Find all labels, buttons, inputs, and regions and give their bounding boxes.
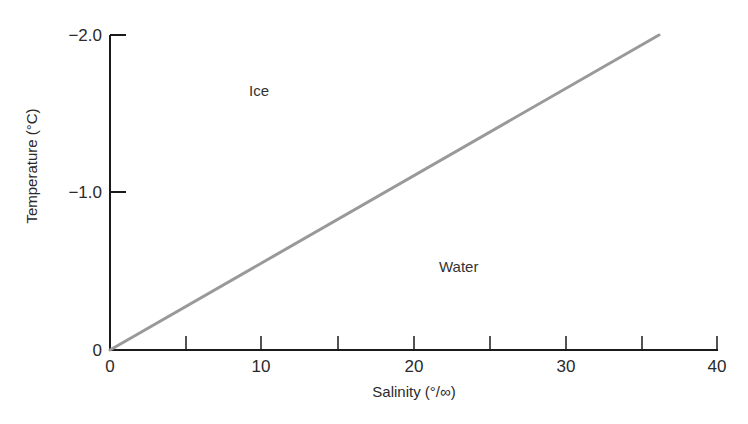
water-region-label: Water [439, 258, 478, 275]
x-tick-label-20: 20 [405, 357, 424, 376]
y-tick-label-zero: 0 [93, 341, 102, 360]
x-tick-label-0: 0 [105, 357, 114, 376]
freezing-line [110, 35, 659, 350]
y-axis-title: Temperature (°C) [23, 108, 40, 223]
chart: −2.0 −1.0 0 0 10 20 30 40 Salinity (°/∞)… [0, 0, 748, 424]
x-tick-label-30: 30 [557, 357, 576, 376]
y-tick-label-mid: −1.0 [68, 183, 102, 202]
y-tick-label-top: −2.0 [68, 26, 102, 45]
x-axis-title: Salinity (°/∞) [372, 383, 455, 400]
x-tick-label-40: 40 [708, 357, 727, 376]
ice-region-label: Ice [249, 82, 269, 99]
x-tick-label-10: 10 [252, 357, 271, 376]
